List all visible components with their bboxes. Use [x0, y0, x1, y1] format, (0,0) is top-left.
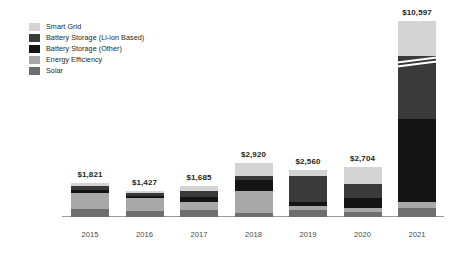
- bar-segment[interactable]: [398, 119, 436, 202]
- bar-value-label: $2,920: [228, 150, 280, 159]
- stacked-bar[interactable]: [289, 170, 327, 217]
- bar-segment[interactable]: [235, 213, 273, 217]
- x-axis-tick-label: 2016: [119, 230, 171, 239]
- bar-segment[interactable]: [71, 209, 109, 217]
- legend-swatch-icon: [29, 56, 40, 64]
- legend-swatch-icon: [29, 45, 40, 53]
- stacked-bar-chart: Smart GridBattery Storage (Li-ion Based)…: [0, 0, 450, 273]
- plot-area: $1,8212015$1,4272016$1,6852017$2,9202018…: [62, 8, 444, 245]
- legend-swatch-icon: [29, 67, 40, 75]
- x-axis-tick-label: 2015: [64, 230, 116, 239]
- bar-group[interactable]: $10,5972021: [391, 19, 443, 217]
- bar-segment[interactable]: [180, 210, 218, 217]
- bar-group[interactable]: $2,7042020: [337, 165, 389, 217]
- bar-value-label: $1,427: [119, 178, 171, 187]
- bar-value-label: $2,560: [282, 157, 334, 166]
- bar-segment[interactable]: [344, 167, 382, 184]
- stacked-bar[interactable]: [180, 186, 218, 217]
- bar-group[interactable]: $1,6852017: [173, 184, 225, 217]
- bar-segment[interactable]: [398, 21, 436, 56]
- bar-segment[interactable]: [398, 208, 436, 217]
- bar-segment[interactable]: [235, 163, 273, 176]
- bar-segment[interactable]: [289, 176, 327, 202]
- x-axis-tick-label: 2019: [282, 230, 334, 239]
- bar-value-label: $1,685: [173, 173, 225, 182]
- bar-value-label: $10,597: [391, 8, 443, 17]
- stacked-bar[interactable]: [398, 21, 436, 217]
- stacked-bar[interactable]: [71, 183, 109, 217]
- legend-swatch-icon: [29, 34, 40, 42]
- x-axis-tick-label: 2017: [173, 230, 225, 239]
- bar-segment[interactable]: [126, 198, 164, 211]
- bar-segment[interactable]: [126, 211, 164, 217]
- bar-group[interactable]: $2,5602019: [282, 168, 334, 217]
- legend-item-label: Solar: [46, 67, 63, 75]
- bar-segment[interactable]: [71, 193, 109, 209]
- stacked-bar[interactable]: [126, 191, 164, 217]
- x-axis-tick-label: 2021: [391, 230, 443, 239]
- bar-segment[interactable]: [344, 212, 382, 217]
- bar-group[interactable]: $2,9202018: [228, 161, 280, 217]
- legend-swatch-icon: [29, 23, 40, 31]
- x-axis-tick-label: 2018: [228, 230, 280, 239]
- bar-segment[interactable]: [344, 198, 382, 208]
- bar-value-label: $1,821: [64, 170, 116, 179]
- stacked-bar[interactable]: [344, 167, 382, 217]
- bar-segment[interactable]: [180, 202, 218, 210]
- stacked-bar[interactable]: [235, 163, 273, 217]
- bar-segment[interactable]: [235, 180, 273, 191]
- bar-segment[interactable]: [235, 191, 273, 212]
- bar-value-label: $2,704: [337, 154, 389, 163]
- bar-group[interactable]: $1,8212015: [64, 181, 116, 217]
- bar-segment[interactable]: [344, 184, 382, 198]
- x-axis-tick-label: 2020: [337, 230, 389, 239]
- bar-segment[interactable]: [398, 56, 436, 119]
- bar-segment[interactable]: [289, 210, 327, 216]
- bar-group[interactable]: $1,4272016: [119, 189, 171, 217]
